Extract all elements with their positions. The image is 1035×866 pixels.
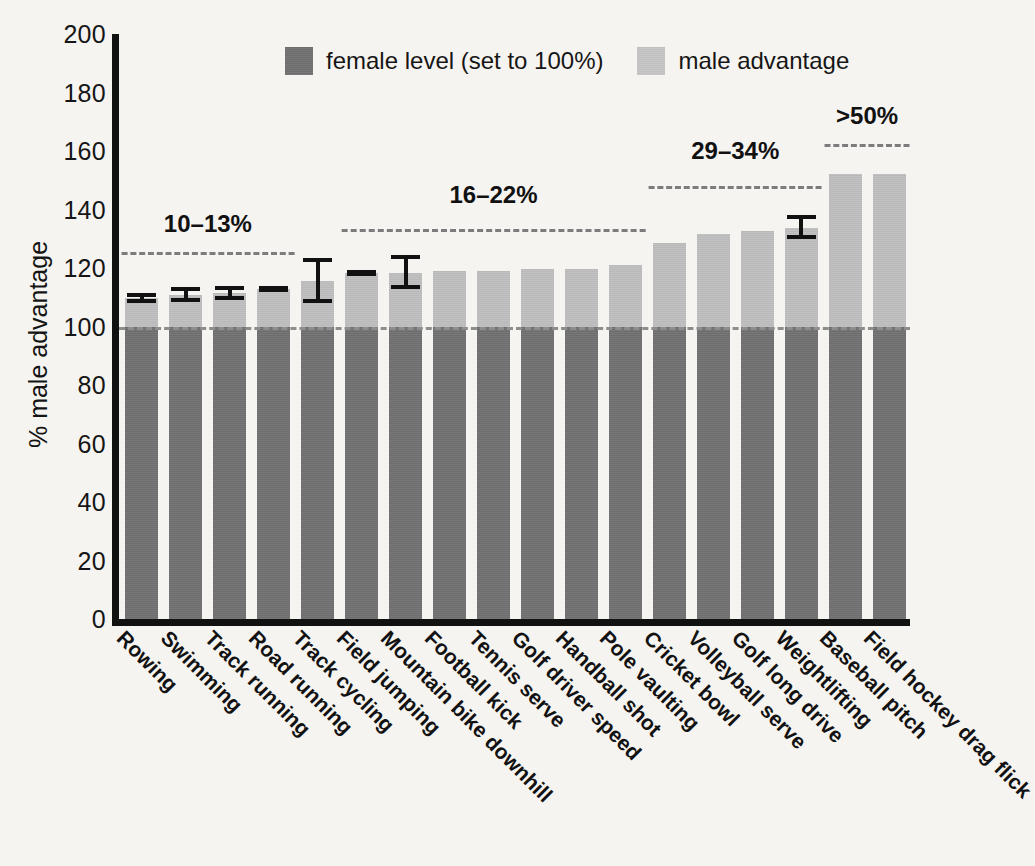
- error-bar-cap-bottom: [127, 299, 156, 303]
- bar-segment-female-level: [433, 327, 466, 620]
- bar-segment-male-advantage: [521, 269, 554, 326]
- plot-area: 10–13%16–22%29–34%>50%: [119, 34, 910, 619]
- bar-segment-male-advantage: [565, 269, 598, 326]
- annotation-label: >50%: [836, 102, 898, 130]
- reference-line-100: [119, 327, 910, 330]
- y-tick-label: 60: [14, 429, 106, 458]
- error-bar-cap-bottom: [347, 272, 376, 276]
- bar-segment-male-advantage: [257, 289, 290, 326]
- bar: [609, 265, 642, 619]
- bar-segment-male-advantage: [741, 231, 774, 327]
- bar: [389, 273, 422, 619]
- error-bar-cap-top: [127, 293, 156, 297]
- bar: [873, 174, 906, 619]
- bar: [697, 234, 730, 619]
- y-tick-label: 0: [14, 605, 106, 634]
- error-bar-cap-bottom: [303, 299, 332, 303]
- bar: [433, 271, 466, 619]
- bar-segment-female-level: [477, 327, 510, 620]
- annotation-label: 29–34%: [691, 137, 779, 165]
- error-bar: [389, 255, 422, 289]
- bar-segment-female-level: [653, 327, 686, 620]
- bar-segment-female-level: [521, 327, 554, 620]
- bar-segment-male-advantage: [345, 273, 378, 326]
- bar-segment-female-level: [785, 327, 818, 620]
- bar: [741, 231, 774, 619]
- bar-segment-female-level: [257, 327, 290, 620]
- bar: [301, 281, 334, 619]
- y-tick-label: 40: [14, 488, 106, 517]
- error-bar: [301, 258, 334, 303]
- error-bar: [257, 286, 290, 292]
- bar-segment-male-advantage: [609, 265, 642, 326]
- error-bar: [213, 286, 246, 300]
- bar: [785, 228, 818, 619]
- bar-segment-female-level: [389, 327, 422, 620]
- annotation-span-rule: [649, 186, 822, 189]
- bar-segment-female-level: [125, 327, 158, 620]
- annotation-label: 10–13%: [164, 210, 252, 238]
- error-bar-stem: [316, 258, 320, 303]
- y-axis-tick-labels: 200180160140120100806040200: [0, 0, 106, 866]
- bar-segment-female-level: [609, 327, 642, 620]
- error-bar: [125, 293, 158, 303]
- bar: [653, 243, 686, 619]
- bar-segment-male-advantage: [873, 174, 906, 326]
- bar: [477, 271, 510, 619]
- bar-segment-male-advantage: [477, 271, 510, 327]
- error-bar-cap-top: [303, 258, 332, 262]
- error-bar-cap-top: [391, 255, 420, 259]
- error-bar-cap-bottom: [787, 235, 816, 239]
- error-bar-cap-bottom: [259, 288, 288, 292]
- error-bar-cap-top: [215, 286, 244, 290]
- x-category-label: Field hockey drag flick: [859, 626, 1035, 803]
- annotation-span-rule: [121, 252, 294, 255]
- y-tick-label: 200: [14, 20, 106, 49]
- bar-segment-female-level: [741, 327, 774, 620]
- bar-segment-male-advantage: [653, 243, 686, 326]
- bar-segment-male-advantage: [697, 234, 730, 326]
- y-tick-label: 20: [14, 546, 106, 575]
- bar-segment-female-level: [345, 327, 378, 620]
- y-tick-label: 120: [14, 254, 106, 283]
- bar: [521, 269, 554, 619]
- error-bar-cap-bottom: [171, 298, 200, 302]
- y-tick-label: 100: [14, 312, 106, 341]
- y-tick-label: 140: [14, 195, 106, 224]
- bar: [125, 298, 158, 619]
- bar: [213, 293, 246, 619]
- bar-segment-female-level: [873, 327, 906, 620]
- bar-segment-male-advantage: [785, 228, 818, 327]
- y-tick-label: 80: [14, 371, 106, 400]
- bar-segment-female-level: [565, 327, 598, 620]
- y-tick-label: 160: [14, 137, 106, 166]
- bar-segment-female-level: [169, 327, 202, 620]
- annotation-span-rule: [341, 229, 646, 232]
- error-bar: [345, 270, 378, 276]
- bar: [169, 295, 202, 619]
- error-bar-cap-top: [171, 287, 200, 291]
- y-tick-label: 180: [14, 78, 106, 107]
- bar-segment-female-level: [213, 327, 246, 620]
- annotation-span-rule: [825, 144, 910, 147]
- error-bar-stem: [404, 255, 408, 289]
- bar-segment-female-level: [829, 327, 862, 620]
- x-axis-line: [112, 619, 910, 626]
- x-axis-category-labels: RowingSwimmingTrack runningRoad runningT…: [119, 626, 919, 866]
- bar: [345, 273, 378, 619]
- error-bar-cap-bottom: [391, 285, 420, 289]
- bar-segment-male-advantage: [829, 174, 862, 326]
- bar-segment-female-level: [301, 327, 334, 620]
- bar: [565, 269, 598, 619]
- bar-segment-male-advantage: [433, 271, 466, 327]
- bar: [829, 174, 862, 619]
- y-axis-line: [112, 34, 119, 622]
- bar: [257, 289, 290, 619]
- bar-segment-female-level: [697, 327, 730, 620]
- error-bar: [169, 287, 202, 302]
- error-bar-cap-top: [787, 215, 816, 219]
- annotation-label: 16–22%: [449, 181, 537, 209]
- error-bar: [785, 215, 818, 238]
- error-bar-cap-bottom: [215, 296, 244, 300]
